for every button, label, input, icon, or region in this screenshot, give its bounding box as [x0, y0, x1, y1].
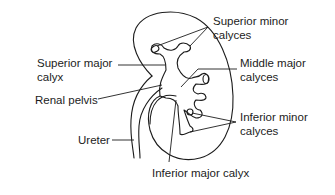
label-middle-major-calyces: Middle major calyces [240, 57, 309, 83]
label-inferior-major-calyx: Inferior major calyx [152, 167, 249, 179]
kidney-diagram: Superior minor calyces Superior major ca… [0, 0, 335, 195]
leader-superior-minor-2 [190, 27, 208, 46]
label-renal-pelvis: Renal pelvis [35, 94, 98, 106]
leader-inferior-major [169, 100, 176, 162]
label-inferior-minor-calyces: Inferior minor calyces [240, 111, 311, 137]
label-superior-major-calyx: Superior major calyx [37, 57, 116, 83]
label-ureter: Ureter [78, 134, 110, 146]
label-superior-minor-calyces: Superior minor calyces [213, 15, 292, 41]
collecting-system [151, 43, 208, 135]
